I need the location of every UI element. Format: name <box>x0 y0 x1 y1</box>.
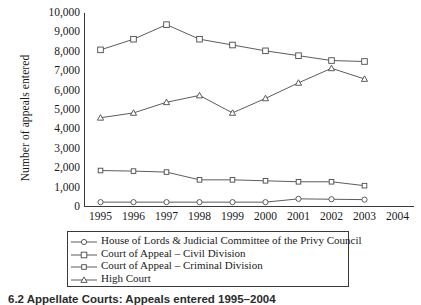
data-point-marker <box>328 65 334 71</box>
y-tick-label: 2,000 <box>24 162 80 173</box>
data-point-marker <box>131 200 136 205</box>
data-point-marker <box>362 59 368 65</box>
data-point-marker <box>329 179 334 184</box>
legend-item: Court of Appeal – Civil Division <box>71 247 344 260</box>
data-point-marker <box>263 179 268 184</box>
data-point-marker <box>164 170 169 175</box>
line-chart-svg <box>84 13 414 207</box>
data-point-marker <box>295 80 301 86</box>
data-point-marker <box>230 178 235 183</box>
legend-label: High Court <box>101 272 151 284</box>
series-circle <box>98 196 367 204</box>
data-point-marker <box>196 92 202 98</box>
legend-label: Court of Appeal – Criminal Division <box>101 259 263 271</box>
data-point-marker <box>329 197 334 202</box>
data-point-marker <box>329 58 335 64</box>
data-point-marker <box>230 200 235 205</box>
data-point-marker <box>82 265 87 270</box>
data-point-marker <box>164 22 170 28</box>
series-small-square <box>98 168 367 188</box>
data-point-marker <box>81 240 86 245</box>
y-tick-label: 5,000 <box>24 104 80 115</box>
data-point-marker <box>262 95 268 101</box>
y-tick-label: 9,000 <box>24 26 80 37</box>
legend-label: Court of Appeal – Civil Division <box>101 247 246 259</box>
data-point-marker <box>296 53 302 59</box>
data-point-marker <box>263 48 269 54</box>
data-point-marker <box>98 47 104 53</box>
legend-label: House of Lords & Judicial Committee of t… <box>101 234 362 246</box>
data-point-marker <box>98 200 103 205</box>
y-tick-label: 3,000 <box>24 143 80 154</box>
legend-item: Court of Appeal – Criminal Division <box>71 259 344 272</box>
legend-marker-circle-icon <box>71 234 97 246</box>
legend-marker-triangle-icon <box>71 272 97 284</box>
y-tick-label: 0 <box>24 201 80 212</box>
plot-area <box>84 13 414 207</box>
data-point-marker <box>362 197 367 202</box>
x-axis-tick-labels: 1995199619971998199920002001200220032004 <box>84 210 421 226</box>
y-tick-label: 4,000 <box>24 123 80 134</box>
data-point-marker <box>81 252 87 258</box>
legend-marker-square-icon <box>71 247 97 259</box>
data-point-marker <box>197 178 202 183</box>
figure-caption: 6.2 Appellate Courts: Appeals entered 19… <box>8 293 276 305</box>
data-point-marker <box>230 42 236 48</box>
legend-item: High Court <box>71 272 344 285</box>
legend-item: House of Lords & Judicial Committee of t… <box>71 234 344 247</box>
data-point-marker <box>98 168 103 173</box>
data-point-marker <box>362 183 367 188</box>
data-point-marker <box>296 196 301 201</box>
y-tick-label: 6,000 <box>24 85 80 96</box>
data-point-marker <box>164 200 169 205</box>
data-point-marker <box>263 200 268 205</box>
y-tick-label: 7,000 <box>24 65 80 76</box>
y-tick-label: 1,000 <box>24 182 80 193</box>
series-square <box>98 22 368 64</box>
legend-marker-small-square-icon <box>71 259 97 271</box>
data-point-marker <box>197 36 203 42</box>
data-point-marker <box>296 179 301 184</box>
data-point-marker <box>229 110 235 116</box>
y-tick-label: 10,000 <box>24 7 80 18</box>
x-tick-label: 2004 <box>376 210 420 222</box>
y-tick-label: 8,000 <box>24 46 80 57</box>
data-point-marker <box>131 169 136 174</box>
data-point-marker <box>131 36 137 42</box>
data-point-marker <box>197 200 202 205</box>
chart-legend: House of Lords & Judicial Committee of t… <box>67 231 349 287</box>
series-triangle <box>97 65 367 120</box>
